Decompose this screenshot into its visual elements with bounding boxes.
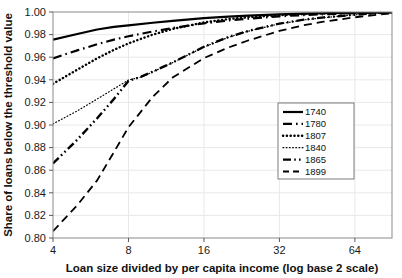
y-tick-label: 0.96 xyxy=(25,51,46,63)
y-tick-label: 0.82 xyxy=(25,209,46,221)
y-tick-label: 0.98 xyxy=(25,28,46,40)
x-axis-title: Loan size divided by per capita income (… xyxy=(66,262,379,274)
x-tick-label: 32 xyxy=(273,244,285,256)
x-tick-label: 16 xyxy=(198,244,210,256)
y-tick-label: 0.88 xyxy=(25,141,46,153)
y-tick-label: 0.94 xyxy=(25,74,46,86)
legend-label-1840: 1840 xyxy=(305,142,326,153)
y-axis-title: Share of loans below the threshold value xyxy=(2,13,14,237)
x-tick-label: 4 xyxy=(50,244,56,256)
x-tick-label: 64 xyxy=(349,244,361,256)
chart-container: 48163264 0.800.820.840.860.880.900.920.9… xyxy=(0,0,402,278)
x-tick-label: 8 xyxy=(125,244,131,256)
legend-label-1807: 1807 xyxy=(305,130,326,141)
y-tick-label: 1.00 xyxy=(25,6,46,18)
y-tick-label: 0.92 xyxy=(25,96,46,108)
y-tick-label: 0.86 xyxy=(25,164,46,176)
legend-label-1899: 1899 xyxy=(305,166,326,177)
y-tick-label: 0.80 xyxy=(25,232,46,244)
y-tick-label: 0.90 xyxy=(25,119,46,131)
y-tick-label: 0.84 xyxy=(25,187,46,199)
legend-label-1865: 1865 xyxy=(305,154,326,165)
legend-label-1740: 1740 xyxy=(305,106,326,117)
legend[interactable]: 174017801807184018651899 xyxy=(278,103,354,179)
line-chart: 48163264 0.800.820.840.860.880.900.920.9… xyxy=(0,0,402,278)
legend-label-1780: 1780 xyxy=(305,118,326,129)
